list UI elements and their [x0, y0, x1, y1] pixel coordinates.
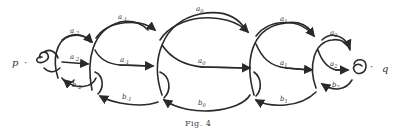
label-top-1: a1	[280, 16, 287, 24]
arc-mid-0	[200, 67, 250, 68]
label-bot-minus1: b-1	[122, 94, 131, 102]
knot-diagram	[0, 0, 401, 135]
right-tangle	[354, 60, 366, 74]
label-bot-minus2: b-2	[72, 82, 81, 90]
label-top-minus1: a-1	[118, 14, 127, 22]
arc-mid-1	[286, 68, 312, 70]
label-top-0: a0	[196, 6, 203, 14]
dot-right: ·	[370, 62, 373, 72]
loop-0	[158, 13, 246, 95]
label-mid-0: a0	[198, 58, 205, 66]
arc-bot-0	[164, 95, 250, 111]
dot-left: ·	[24, 58, 27, 68]
label-top-minus2: a-2	[70, 28, 79, 36]
label-bot-1: b1	[280, 96, 288, 104]
endpoint-q: q	[382, 64, 388, 74]
label-mid-2: a2	[330, 61, 337, 69]
loop-1-lower	[254, 72, 260, 96]
label-bot-0: b0	[198, 100, 206, 108]
label-mid-minus1: a-1	[120, 57, 129, 65]
label-bot-2: b2	[332, 82, 340, 90]
label-mid-minus2: a-2	[70, 54, 79, 62]
label-top-2: a2	[330, 30, 337, 38]
arc-top-1	[256, 23, 314, 37]
figure-caption: Fig. 4	[185, 119, 211, 128]
loop-minus1-lower	[95, 72, 102, 94]
label-mid-1: a1	[280, 60, 287, 68]
endpoint-p: p	[12, 58, 18, 68]
